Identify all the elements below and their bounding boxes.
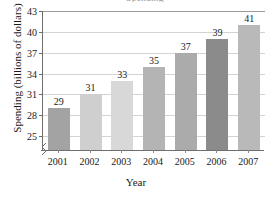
y-tick-mark xyxy=(39,136,43,137)
y-tick-label: 37 xyxy=(27,47,37,58)
bar-value-label: 37 xyxy=(181,41,191,52)
gridline xyxy=(43,32,265,33)
x-axis-title: Year xyxy=(0,176,272,188)
gridline xyxy=(43,11,265,12)
bar-2004: 35 xyxy=(143,67,165,150)
x-tick-mark xyxy=(153,150,154,153)
y-tick-label: 43 xyxy=(27,6,37,17)
y-tick-label: 25 xyxy=(27,131,37,142)
x-tick-mark xyxy=(58,150,59,153)
x-tick-label-2007: 2007 xyxy=(238,156,258,167)
x-tick-label-2002: 2002 xyxy=(80,156,100,167)
x-tick-mark xyxy=(216,150,217,153)
bar-2007: 41 xyxy=(238,25,260,150)
y-tick-mark xyxy=(39,53,43,54)
plot-area: 25283134374043 29313335373941 xyxy=(42,11,264,150)
x-tick-label-2003: 2003 xyxy=(111,156,131,167)
x-tick-label-2004: 2004 xyxy=(143,156,163,167)
bar-value-label: 33 xyxy=(117,69,127,80)
y-tick-label: 40 xyxy=(27,26,37,37)
x-tick-label-2001: 2001 xyxy=(48,156,68,167)
y-tick-mark xyxy=(39,32,43,33)
x-tick-mark xyxy=(185,150,186,153)
y-tick-label: 31 xyxy=(27,89,37,100)
bar-2002: 31 xyxy=(80,94,102,150)
bar-chart-figure: Spending Spending (billions of dollars) … xyxy=(0,0,272,202)
y-tick-label: 34 xyxy=(27,68,37,79)
bar-2005: 37 xyxy=(175,53,197,150)
y-tick-mark xyxy=(39,11,43,12)
bar-value-label: 29 xyxy=(54,96,64,107)
y-tick-mark xyxy=(39,115,43,116)
chart-title: Spending xyxy=(60,0,230,2)
y-tick-mark xyxy=(39,94,43,95)
bar-value-label: 31 xyxy=(86,82,96,93)
bar-value-label: 35 xyxy=(149,55,159,66)
bar-2003: 33 xyxy=(111,81,133,151)
x-tick-mark xyxy=(248,150,249,153)
gridline xyxy=(43,53,265,54)
x-tick-mark xyxy=(121,150,122,153)
y-tick-mark xyxy=(39,74,43,75)
bar-value-label: 39 xyxy=(212,27,222,38)
x-tick-label-2006: 2006 xyxy=(206,156,226,167)
bar-value-label: 41 xyxy=(244,13,254,24)
x-tick-mark xyxy=(90,150,91,153)
bar-2006: 39 xyxy=(206,39,228,150)
y-tick-label: 28 xyxy=(27,110,37,121)
bar-2001: 29 xyxy=(48,108,70,150)
x-tick-label-2005: 2005 xyxy=(175,156,195,167)
y-axis-title: Spending (billions of dollars) xyxy=(11,0,23,143)
